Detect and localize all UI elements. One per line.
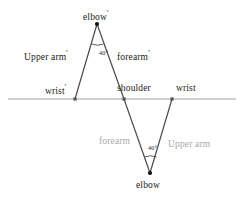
label-upper-arm: Upper arm bbox=[168, 140, 210, 150]
angle-arc-elbow bbox=[145, 156, 157, 157]
label-upper-arm-prime: Upper arm' bbox=[24, 50, 68, 63]
label-angle-elbow-prime: 40° bbox=[99, 50, 108, 56]
label-wrist-prime-text: wrist bbox=[45, 86, 65, 96]
joint-dot-elbow bbox=[148, 171, 152, 175]
arm-kinematics-figure: elbow' Upper arm' forearm' wrist' should… bbox=[0, 0, 242, 199]
label-elbow-prime-text: elbow bbox=[83, 12, 107, 22]
label-wrist-prime: wrist' bbox=[45, 84, 66, 97]
diagram-canvas bbox=[0, 0, 242, 199]
angle-arc-elbow-prime bbox=[92, 44, 104, 45]
segment-upper-arm bbox=[150, 99, 172, 173]
label-shoulder: shoulder bbox=[117, 84, 151, 94]
label-forearm-prime: forearm' bbox=[117, 50, 150, 63]
prime-mark-wrist: ' bbox=[65, 83, 66, 92]
prime-mark-elbow: ' bbox=[107, 9, 108, 18]
joint-dot-shoulder bbox=[122, 97, 125, 100]
prime-mark-upper-arm: ' bbox=[66, 49, 67, 58]
segment-upper-arm-prime bbox=[75, 24, 97, 99]
label-upper-arm-prime-text: Upper arm bbox=[24, 52, 66, 62]
label-elbow: elbow bbox=[136, 181, 160, 191]
label-forearm: forearm bbox=[99, 137, 130, 147]
label-angle-elbow: 40° bbox=[148, 145, 157, 151]
joint-dot-wrist-prime bbox=[73, 97, 76, 100]
label-wrist: wrist bbox=[176, 84, 196, 94]
prime-mark-forearm: ' bbox=[148, 49, 149, 58]
label-forearm-prime-text: forearm bbox=[117, 52, 148, 62]
label-elbow-prime: elbow' bbox=[83, 10, 108, 23]
joint-dot-wrist bbox=[170, 97, 173, 100]
